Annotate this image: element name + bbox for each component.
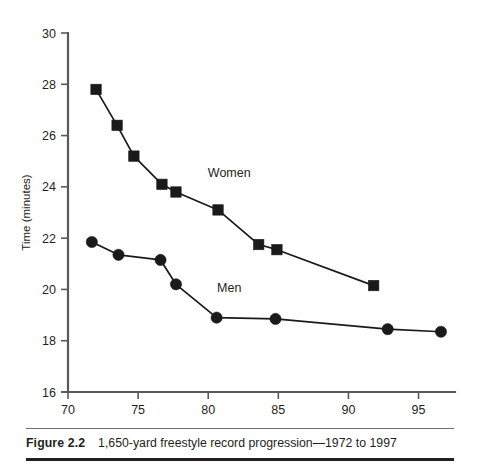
figure-caption: Figure 2.21,650-yard freestyle record pr… [26, 434, 456, 452]
x-tick-label: 85 [271, 403, 285, 417]
data-point-marker [86, 236, 97, 247]
y-tick-label: 22 [42, 232, 56, 246]
y-tick-label: 20 [42, 283, 56, 297]
caption-rule-bottom [26, 458, 454, 461]
series-label-men: Men [217, 281, 241, 295]
data-point-marker [113, 249, 124, 260]
y-axis-title: Time (minutes) [20, 174, 32, 250]
y-tick-label: 28 [42, 78, 56, 92]
y-tick-label: 18 [42, 334, 56, 348]
data-point-marker [91, 84, 101, 94]
data-point-marker [270, 313, 281, 324]
data-point-marker [157, 179, 167, 189]
data-point-marker [272, 244, 282, 254]
data-point-marker [129, 151, 139, 161]
line-chart: 1618202224262830 707580859095 WomenMen Y… [0, 0, 477, 425]
data-point-marker [435, 326, 446, 337]
y-tick-label: 26 [42, 129, 56, 143]
data-point-marker [171, 187, 181, 197]
series-men [86, 236, 446, 337]
data-point-marker [213, 205, 223, 215]
figure-caption-block: Figure 2.21,650-yard freestyle record pr… [0, 424, 477, 469]
data-point-marker [254, 239, 264, 249]
y-tick-label: 24 [42, 180, 56, 194]
y-tick-label: 16 [42, 386, 56, 400]
data-point-marker [170, 279, 181, 290]
series-line-women [96, 89, 374, 285]
chart-axes [68, 33, 455, 392]
series-line-men [92, 242, 441, 332]
data-point-marker [211, 312, 222, 323]
figure-container: 1618202224262830 707580859095 WomenMen Y… [0, 0, 477, 469]
y-axis-ticks: 1618202224262830 [42, 27, 68, 400]
data-point-marker [368, 280, 378, 290]
axis-titles: YearTime (minutes) [20, 174, 273, 425]
series-women [91, 84, 379, 291]
chart-series-group [86, 84, 446, 337]
figure-caption-label: Figure 2.2 [26, 436, 85, 450]
data-point-marker [382, 324, 393, 335]
x-tick-label: 90 [341, 403, 355, 417]
series-label-women: Women [208, 166, 251, 180]
chart-plot-area: 1618202224262830 707580859095 WomenMen Y… [0, 0, 477, 425]
data-point-marker [155, 254, 166, 265]
x-tick-label: 80 [201, 403, 215, 417]
caption-rule-top [26, 428, 454, 429]
data-point-marker [112, 120, 122, 130]
x-tick-label: 75 [131, 403, 145, 417]
x-tick-label: 95 [412, 403, 426, 417]
series-annotations: WomenMen [208, 166, 251, 295]
x-axis-ticks: 707580859095 [61, 392, 426, 417]
figure-caption-body: 1,650-yard freestyle record progression—… [98, 436, 397, 450]
x-tick-label: 70 [61, 403, 75, 417]
y-tick-label: 30 [42, 27, 56, 41]
